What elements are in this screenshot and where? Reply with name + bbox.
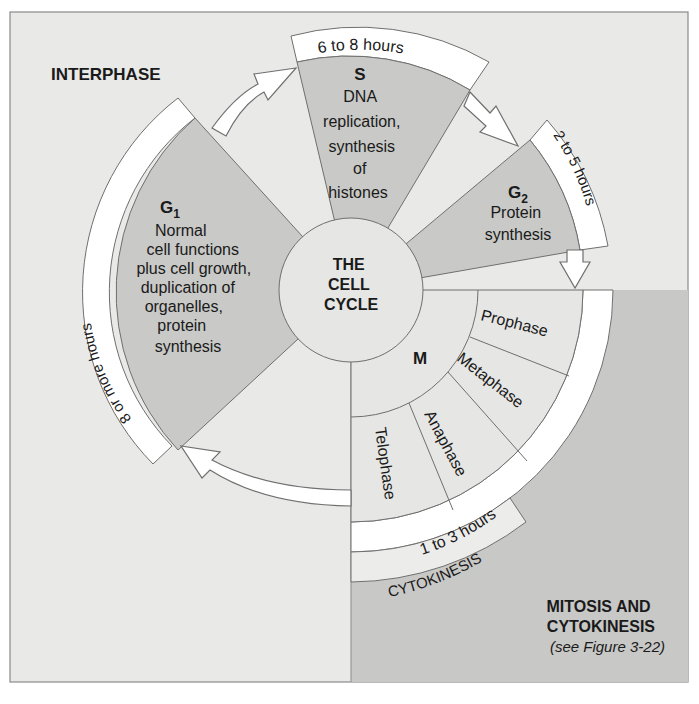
interphase-label: INTERPHASE: [51, 65, 161, 84]
cell-cycle-diagram: INTERPHASE THE CELL CYCLE G1 Normal cell…: [0, 0, 699, 704]
mitosis-figure-reference: (see Figure 3-22): [550, 638, 665, 655]
s-title: S: [354, 65, 365, 84]
m-title: M: [413, 349, 427, 368]
